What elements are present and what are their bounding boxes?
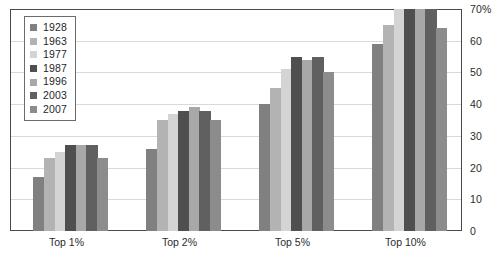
bar-chart: 70%6050403020100 Top 1%Top 2%Top 5%Top 1… [0,0,498,257]
legend-label: 1928 [43,21,67,35]
bar-1928-top-1 [33,177,44,231]
legend-item-2007: 2007 [30,103,67,117]
bar-1996-top-5 [302,60,313,231]
y-tick-label-20: 20 [470,162,482,174]
bar-1963-top-10 [383,25,394,231]
y-tick-label-50: 50 [470,66,482,78]
legend-label: 1987 [43,62,67,76]
bar-2003-top-1 [86,145,97,231]
x-tick-label-top-5: Top 5% [275,236,310,248]
legend-item-2003: 2003 [30,89,67,103]
bar-group-top-2 [146,9,221,231]
bar-2003-top-10 [425,9,436,231]
bars-layer [10,9,462,231]
x-tick-label-top-2: Top 2% [162,236,197,248]
bar-1987-top-5 [291,57,302,231]
legend-swatch-icon-2007 [30,106,37,113]
bar-1977-top-10 [394,9,405,231]
bar-1928-top-10 [372,44,383,231]
legend-item-1963: 1963 [30,35,67,49]
bar-1987-top-1 [65,145,76,231]
x-tick-label-top-1: Top 1% [49,236,84,248]
bar-2007-top-1 [97,158,108,231]
y-tick-label-10: 10 [470,193,482,205]
bar-1928-top-2 [146,149,157,231]
legend-label: 1977 [43,48,67,62]
bar-1977-top-5 [281,69,292,231]
bar-1963-top-1 [44,158,55,231]
legend-item-1987: 1987 [30,62,67,76]
legend-swatch-icon-1928 [30,24,37,31]
bar-1996-top-2 [189,107,200,231]
bar-2007-top-10 [436,28,447,231]
bar-2007-top-2 [210,120,221,231]
y-tick-label-30: 30 [470,130,482,142]
bar-group-top-5 [259,9,334,231]
legend: 1928196319771987199620032007 [24,16,76,121]
legend-item-1977: 1977 [30,48,67,62]
legend-swatch-icon-1996 [30,79,37,86]
bar-1987-top-10 [404,9,415,231]
legend-swatch-icon-1987 [30,65,37,72]
legend-item-1996: 1996 [30,75,67,89]
legend-swatch-icon-1977 [30,51,37,58]
y-tick-label-0: 0 [470,225,476,237]
bar-1977-top-2 [168,114,179,231]
bar-1963-top-5 [270,88,281,231]
legend-swatch-icon-1963 [30,38,37,45]
bar-1977-top-1 [55,152,66,231]
y-tick-label-70: 70% [470,3,492,15]
legend-label: 1963 [43,35,67,49]
bar-1996-top-10 [415,9,426,231]
legend-label: 2003 [43,89,67,103]
y-tick-label-60: 60 [470,35,482,47]
bar-2003-top-5 [312,57,323,231]
x-tick-label-top-10: Top 10% [385,236,426,248]
y-tick-label-40: 40 [470,98,482,110]
bar-1963-top-2 [157,120,168,231]
legend-item-1928: 1928 [30,21,67,35]
bar-1996-top-1 [76,145,87,231]
legend-label: 2007 [43,103,67,117]
bar-1928-top-5 [259,104,270,231]
legend-label: 1996 [43,75,67,89]
legend-swatch-icon-2003 [30,92,37,99]
bar-2007-top-5 [323,72,334,231]
bar-1987-top-2 [178,111,189,232]
bar-2003-top-2 [199,111,210,232]
bar-group-top-10 [372,9,447,231]
